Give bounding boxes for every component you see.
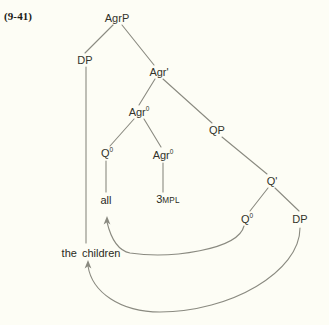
arrow-dp-raising [88, 228, 300, 312]
branch-agrbar-agrzero [139, 79, 155, 105]
tree-branches-and-arrows [0, 0, 329, 325]
branch-qp-qbar [222, 137, 267, 174]
node-q-bar: Q' [267, 176, 278, 187]
node-q-zero-right: Q0 [241, 214, 253, 225]
node-dp-complement: DP [292, 214, 307, 225]
terminal-agr-features: 3MPL [156, 194, 180, 205]
branch-qbar-dpcomp [275, 188, 299, 211]
branch-agrzero-qzero [110, 119, 134, 146]
node-agr-bar: Agr' [149, 67, 168, 78]
syntax-tree-figure: (9-41) [0, 0, 329, 325]
branch-agrzero-agrzerolower [144, 119, 161, 147]
node-agr-zero-upper: Agr0 [129, 107, 150, 118]
node-dp-specifier: DP [77, 55, 92, 66]
node-agrp: AgrP [105, 13, 129, 24]
arrow-q-head-movement [107, 222, 244, 255]
branch-agrbar-qp [163, 79, 212, 123]
terminal-all: all [100, 195, 111, 206]
branch-qbar-qzeroright [250, 188, 268, 211]
node-q-zero-left: Q0 [101, 148, 113, 159]
branch-agrp-dp [85, 25, 113, 53]
node-agr-zero-lower: Agr0 [153, 150, 174, 161]
terminal-the-children: thechildren [62, 248, 121, 259]
node-qp: QP [209, 125, 225, 136]
branch-agrp-agrbar [122, 25, 154, 65]
